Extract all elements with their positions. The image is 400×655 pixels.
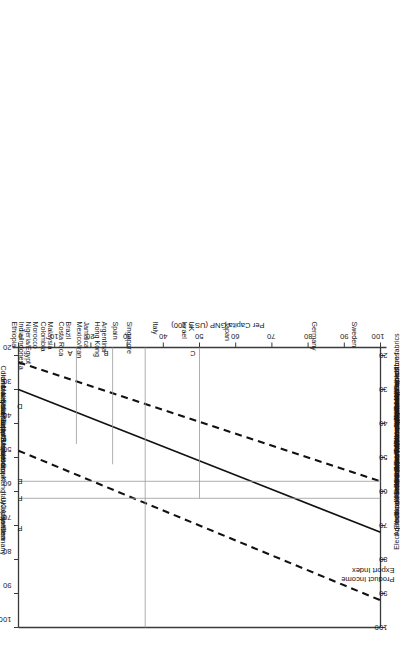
series-solid-P <box>18 389 380 532</box>
country-index-tick-label: 100 <box>0 614 11 623</box>
bottom-axis-title: Per Capita GNP (US = 100) <box>171 320 264 329</box>
country-index-tick-label: 70 <box>2 512 11 521</box>
country-index-tick-label: 50 <box>2 444 11 453</box>
gnp-tick-label: 40 <box>158 331 167 340</box>
gnp-tick-label: 90 <box>339 331 348 340</box>
gnp-tick-label: 20 <box>86 331 95 340</box>
series-upper-dashed <box>18 450 380 600</box>
gnp-tick-label: 100 <box>371 331 384 340</box>
gnp-tick-label: 60 <box>231 331 240 340</box>
gnp-tick-label: 50 <box>194 331 203 340</box>
marker-b: B <box>103 348 108 357</box>
gnp-country-label: Spain <box>110 321 118 339</box>
marker-d: D <box>17 401 22 410</box>
gnp-country-label: Morocco <box>30 321 38 348</box>
marker-f: F <box>17 493 22 502</box>
right-axis-title: Product Income Export Index <box>341 565 394 583</box>
product-index-tick-label: 40 <box>378 418 387 427</box>
gnp-tick-label: 10 <box>50 331 59 340</box>
gnp-country-label: Italy <box>150 321 158 334</box>
gnp-tick-label: 70 <box>267 331 276 340</box>
series-lower-dashed <box>18 362 380 481</box>
product-label: Vegetable fibres <box>392 352 400 403</box>
country-index-tick-label: 80 <box>2 546 11 555</box>
country-index-tick-label: 90 <box>2 580 11 589</box>
country-index-tick-label: 40 <box>2 410 11 419</box>
axes-group <box>12 342 386 627</box>
gnp-country-label: Brazil <box>63 321 71 339</box>
marker-c: C <box>190 348 195 357</box>
product-index-tick-label: 50 <box>378 452 387 461</box>
gnp-tick-label: 30 <box>122 331 131 340</box>
country-index-tick-label: 30 <box>2 376 11 385</box>
country-index-tick-label: 60 <box>2 478 11 487</box>
guide-lines-group <box>18 347 380 627</box>
gnp-country-label: Colombia <box>38 321 46 351</box>
product-index-tick-label: 80 <box>378 554 387 563</box>
product-index-tick-label: 100 <box>374 622 387 631</box>
product-index-tick-label: 70 <box>378 520 387 529</box>
product-index-tick-label: 90 <box>378 588 387 597</box>
country-index-tick-label: 20 <box>2 342 11 351</box>
product-index-tick-label: 30 <box>378 384 387 393</box>
marker-e: E <box>17 476 22 485</box>
right-axis-title-line2: Export Index <box>341 565 394 574</box>
gnp-tick-label: 80 <box>303 331 312 340</box>
marker-a: A <box>67 348 72 357</box>
product-index-tick-label: 20 <box>378 350 387 359</box>
gnp-country-label: Argentina <box>99 321 107 351</box>
gnp-country-label: Sweden <box>349 321 357 347</box>
product-index-tick-label: 60 <box>378 486 387 495</box>
data-lines-group <box>18 362 380 600</box>
right-axis-title-line1: Product Income <box>341 574 394 583</box>
gnp-tick-label: 0 <box>18 331 22 340</box>
marker-p: P <box>17 523 22 532</box>
